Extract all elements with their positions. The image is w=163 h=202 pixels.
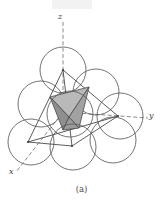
atom-circle [97, 93, 143, 139]
y-axis-label: y [149, 112, 154, 120]
figure-container: z y x (a) [0, 0, 163, 202]
z-axis-label: z [58, 13, 62, 21]
x-axis-label: x [9, 168, 14, 176]
vertex-dot [27, 141, 29, 143]
vertex-dot [71, 145, 73, 147]
atom-circle [50, 124, 96, 170]
vertex-dot [62, 69, 64, 71]
crystal-structure-diagram [0, 0, 163, 202]
figure-caption: (a) [0, 184, 163, 194]
atom-circle [90, 117, 136, 163]
vertex-dot [117, 115, 119, 117]
